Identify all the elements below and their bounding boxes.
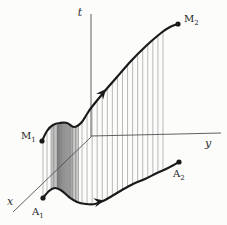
y-axis-line [91, 133, 221, 136]
t-axis-label: t [78, 6, 83, 19]
A2-label-sub: 2 [180, 174, 184, 182]
A1-label-sub: 1 [39, 212, 43, 220]
M2-label-sub: 2 [194, 19, 198, 27]
M1-label-sub: 1 [31, 136, 35, 144]
M2-label-main: M [184, 13, 194, 24]
M1-dot [39, 138, 44, 143]
M1-label-main: M [21, 130, 31, 141]
M2-dot [175, 21, 180, 26]
space-trajectory-projection-diagram: tyx M1M2A1A2 [0, 0, 227, 225]
hatch-lines [43, 33, 163, 204]
M1-label: M1 [21, 130, 36, 144]
figure-canvas: tyx M1M2A1A2 [0, 0, 227, 225]
y-axis-label: y [204, 137, 212, 150]
x-axis-label: x [7, 195, 14, 208]
A2-dot [176, 159, 181, 164]
A1-label: A1 [31, 206, 44, 220]
coordinate-axes: tyx [7, 6, 221, 212]
point-labels: M1M2A1A2 [21, 13, 199, 220]
A2-label: A2 [172, 168, 185, 182]
A1-dot [40, 195, 45, 200]
M2-label: M2 [184, 13, 199, 27]
